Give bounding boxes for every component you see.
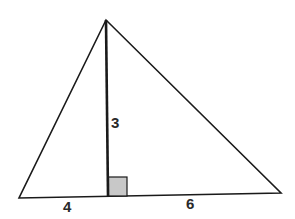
altitude-label: 3	[111, 114, 119, 131]
altitude-line	[106, 20, 108, 196]
triangle-diagram: 3 4 6	[0, 0, 295, 219]
right-base-label: 6	[186, 195, 194, 212]
right-angle-marker	[109, 177, 128, 196]
triangle	[19, 20, 281, 198]
left-base-label: 4	[63, 198, 72, 215]
